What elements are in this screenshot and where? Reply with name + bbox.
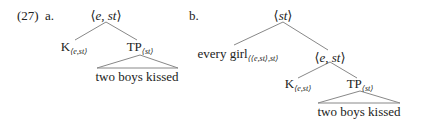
tree-a-k-node: K⟨e,st⟩ — [61, 40, 88, 53]
tree-b-tp-node: TP⟨st⟩ — [347, 77, 374, 90]
tree-b-every-girl-node: every girl⟨⟨e,st⟩,st⟩ — [198, 47, 279, 60]
tree-b-triangle-text: two boys kissed — [317, 105, 400, 118]
tree-a-label: a. — [45, 9, 54, 22]
tree-a-triangle-text: two boys kissed — [95, 70, 178, 83]
tree-b-k-node: K⟨e,st⟩ — [285, 77, 312, 90]
tree-b-est-node: ⟨e, st⟩ — [314, 51, 345, 64]
tree-a-root: ⟨e, st⟩ — [90, 9, 121, 22]
example-number: (27) — [17, 9, 39, 22]
tree-b-label: b. — [189, 9, 199, 22]
tree-a-tp-node: TP⟨st⟩ — [127, 40, 154, 53]
tree-b-root: ⟨st⟩ — [274, 9, 293, 22]
